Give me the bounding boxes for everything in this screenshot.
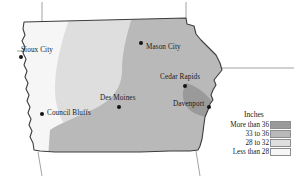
legend-row-28-to-32: 28 to 32 <box>222 139 294 147</box>
city-label-council-bluffs: Council Bluffs <box>47 110 91 117</box>
legend-title: Inches <box>244 110 264 119</box>
legend-row-less-than-28: Less than 28 <box>222 148 294 156</box>
city-label-sioux-city: Sioux City <box>21 47 53 54</box>
legend-label-28-to-32: 28 to 32 <box>245 139 269 147</box>
city-dot-sioux-city <box>19 55 23 59</box>
legend-swatch-less-than-28 <box>270 148 291 156</box>
legend-swatch-more-than-36 <box>270 121 291 129</box>
legend-label-more-than-36: More than 36 <box>230 121 269 129</box>
city-label-davenport: Davenport <box>173 101 204 108</box>
city-label-des-moines: Des Moines <box>100 95 136 102</box>
legend-row-33-to-36: 33 to 36 <box>222 130 294 138</box>
legend-row-more-than-36: More than 36 <box>222 121 294 129</box>
iowa-precipitation-map: Sioux City Mason City Cedar Rapids Des M… <box>0 0 297 177</box>
city-label-cedar-rapids: Cedar Rapids <box>160 74 200 81</box>
legend-swatch-28-to-32 <box>270 139 291 147</box>
legend-label-33-to-36: 33 to 36 <box>245 130 269 138</box>
city-label-mason-city: Mason City <box>146 44 181 51</box>
legend-swatch-33-to-36 <box>270 130 291 138</box>
legend-label-less-than-28: Less than 28 <box>233 148 269 156</box>
